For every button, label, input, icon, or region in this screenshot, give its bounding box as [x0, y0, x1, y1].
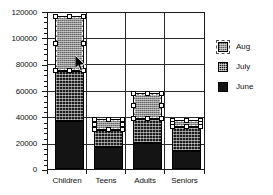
x-axis-label-teens: Teens [87, 176, 125, 185]
mouse-pointer-icon [75, 55, 87, 73]
selection-handle[interactable] [92, 127, 97, 132]
bar-segment-july[interactable] [55, 71, 84, 121]
x-axis-label-adults: Adults [126, 176, 164, 185]
category-divider [164, 13, 165, 169]
selection-handle[interactable] [145, 116, 150, 121]
bar-group-adults[interactable] [133, 13, 162, 169]
selection-handle[interactable] [184, 124, 189, 129]
selection-handle[interactable] [53, 14, 58, 19]
selection-handle[interactable] [67, 14, 72, 19]
selection-handle[interactable] [159, 116, 164, 121]
x-tick [204, 170, 205, 174]
legend-label: June [236, 81, 253, 92]
selection-handle[interactable] [67, 68, 72, 73]
selection-handle[interactable] [131, 116, 136, 121]
bar-segment-june[interactable] [94, 147, 123, 169]
bar-group-seniors[interactable] [172, 13, 201, 169]
legend-item-aug[interactable]: Aug [218, 40, 273, 60]
bar-segment-aug[interactable] [133, 93, 162, 119]
selection-handle[interactable] [159, 103, 164, 108]
selection-handle[interactable] [198, 124, 203, 129]
legend-label: July [236, 61, 250, 72]
category-divider [125, 13, 126, 169]
x-tick [47, 170, 48, 174]
selection-handle[interactable] [145, 91, 150, 96]
selection-handle[interactable] [92, 122, 97, 127]
bar-segment-june[interactable] [172, 151, 201, 169]
selection-handle[interactable] [131, 103, 136, 108]
selection-handle[interactable] [120, 127, 125, 132]
selection-handle[interactable] [184, 118, 189, 123]
y-tick-label: 80000 [16, 61, 37, 69]
june-swatch-icon [218, 82, 228, 92]
bar-segment-aug[interactable] [94, 119, 123, 130]
july-swatch-icon [218, 62, 228, 72]
y-tick-label: 20000 [16, 140, 37, 148]
category-divider [86, 13, 87, 169]
x-axis-label-seniors: Seniors [165, 176, 204, 185]
x-tick [86, 170, 87, 174]
selection-handle[interactable] [159, 91, 164, 96]
bar-group-children[interactable] [55, 13, 84, 169]
plot-area [47, 12, 205, 170]
selection-handle[interactable] [131, 91, 136, 96]
selection-handle[interactable] [81, 41, 86, 46]
y-axis: 120000 100000 80000 60000 40000 20000 0 [0, 0, 45, 182]
selection-handle[interactable] [81, 14, 86, 19]
x-tick [125, 170, 126, 174]
bar-segment-june[interactable] [55, 121, 84, 169]
x-tick [164, 170, 165, 174]
y-tick-label: 120000 [12, 9, 38, 17]
selection-handle[interactable] [53, 68, 58, 73]
y-tick-label: 100000 [12, 35, 38, 43]
stacked-bar-chart: 120000 100000 80000 60000 40000 20000 0 [0, 0, 273, 195]
bar-segment-aug[interactable] [172, 120, 201, 127]
y-tick-label: 40000 [16, 114, 37, 122]
selection-handle[interactable] [170, 124, 175, 129]
legend-label: Aug [236, 41, 250, 52]
selection-handle[interactable] [106, 127, 111, 132]
y-tick-label: 0 [33, 166, 37, 174]
bar-segment-july[interactable] [94, 130, 123, 147]
legend-item-july[interactable]: July [218, 60, 273, 80]
x-axis-label-children: Children [48, 176, 86, 185]
selection-handle[interactable] [53, 41, 58, 46]
legend: Aug July June [218, 40, 273, 100]
bar-segment-july[interactable] [172, 127, 201, 151]
legend-item-june[interactable]: June [218, 80, 273, 100]
y-tick-label: 60000 [16, 88, 37, 96]
aug-swatch-icon [218, 42, 228, 52]
selection-handle[interactable] [120, 122, 125, 127]
bar-group-teens[interactable] [94, 13, 123, 169]
bar-segment-june[interactable] [133, 143, 162, 169]
bar-segment-july[interactable] [133, 119, 162, 143]
selection-handle[interactable] [106, 117, 111, 122]
